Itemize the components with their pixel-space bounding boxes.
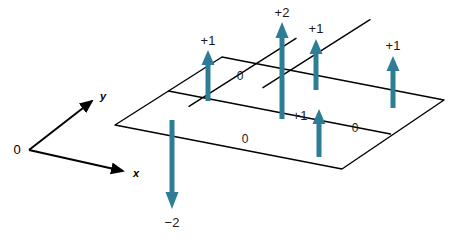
vector-arrow-up-2: +2 bbox=[275, 5, 290, 119]
arrow-head-up-icon bbox=[310, 39, 323, 54]
arrow-value-label: +1 bbox=[386, 38, 401, 53]
arrow-value-label: +1 bbox=[309, 21, 324, 36]
arrow-value-label: −2 bbox=[165, 215, 180, 230]
arrow-head-up-icon bbox=[387, 56, 400, 71]
arrow-value-label: +1 bbox=[201, 33, 216, 48]
arrow-value-label: +1 bbox=[293, 108, 308, 123]
y-axis-label: y bbox=[99, 90, 107, 102]
vector-arrow-group: +1 +2 +1 +1 bbox=[165, 5, 401, 230]
origin-label: 0 bbox=[13, 142, 20, 157]
vector-arrow-up-3: +1 bbox=[309, 21, 324, 90]
arrow-head-down-icon bbox=[166, 192, 179, 209]
x-axis-line bbox=[29, 150, 123, 171]
diagram-canvas: 0 y x 0 0 0 +1 bbox=[0, 0, 458, 240]
coordinate-axes: 0 y x bbox=[13, 90, 140, 179]
x-axis-label: x bbox=[132, 167, 140, 179]
cell-value: 0 bbox=[352, 121, 359, 135]
arrow-head-up-icon bbox=[276, 22, 289, 38]
cell-value: 0 bbox=[242, 132, 249, 146]
arrow-head-up-icon bbox=[202, 50, 215, 65]
y-axis-line bbox=[29, 101, 92, 150]
vector-field-diagram: 0 y x 0 0 0 +1 bbox=[0, 0, 458, 240]
arrow-value-label: +2 bbox=[275, 5, 290, 20]
vector-arrow-up-4: +1 bbox=[293, 108, 326, 157]
vector-arrow-up-5: +1 bbox=[386, 38, 401, 108]
arrow-head-up-icon bbox=[313, 109, 326, 124]
cell-value: 0 bbox=[237, 69, 244, 83]
